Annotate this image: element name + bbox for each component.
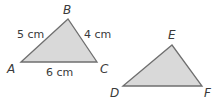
side-label-bc: 4 cm bbox=[84, 28, 111, 41]
vertex-label-e: E bbox=[168, 28, 176, 42]
vertex-label-f: F bbox=[204, 86, 212, 100]
vertex-label-d: D bbox=[110, 86, 119, 100]
vertex-label-b: B bbox=[63, 3, 71, 17]
triangle-diagram: A B C 5 cm 4 cm 6 cm D E F bbox=[0, 0, 218, 103]
vertex-label-c: C bbox=[100, 62, 109, 76]
triangle-def bbox=[123, 45, 202, 86]
vertex-label-a: A bbox=[6, 62, 15, 76]
side-label-ab: 5 cm bbox=[17, 28, 44, 41]
side-label-ac: 6 cm bbox=[46, 66, 73, 79]
